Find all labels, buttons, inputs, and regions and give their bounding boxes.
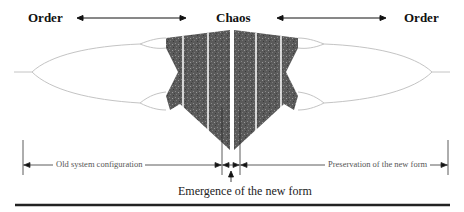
left-branches [14, 38, 166, 110]
right-branches [298, 38, 450, 110]
emergence-arrow [229, 171, 234, 182]
label-order-right: Order [404, 10, 439, 26]
chaos-region-right [234, 30, 298, 150]
top-arrow-right [277, 16, 386, 21]
label-preservation: Preservation of the new form [325, 159, 430, 169]
label-old-system: Old system configuration [53, 159, 145, 169]
label-emergence: Emergence of the new form [178, 184, 312, 199]
bifurcation-diagram [0, 0, 464, 212]
label-chaos: Chaos [216, 10, 251, 26]
top-arrow-left [77, 16, 186, 21]
chaos-region-left [166, 30, 230, 150]
label-order-left: Order [28, 10, 63, 26]
